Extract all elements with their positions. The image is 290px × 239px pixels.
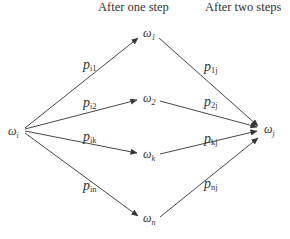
node-omega-1: ω1 xyxy=(143,26,155,42)
edge-1-to-j xyxy=(159,38,258,126)
label-p-i1: pi1 xyxy=(82,57,97,73)
label-p-i2: pi2 xyxy=(82,95,97,111)
node-omega-j: ωj xyxy=(264,122,275,138)
node-omega-k: ωk xyxy=(143,147,155,163)
label-p-kj: pkj xyxy=(203,131,218,147)
label-p-in: pin xyxy=(82,178,97,194)
edge-i-to-k xyxy=(25,131,137,153)
label-p-ik: pik xyxy=(82,129,97,145)
transition-diagram: ωi ω1 ω2 ωk ωn ωj pi1 pi2 pik pin p1j p2… xyxy=(0,0,290,239)
node-omega-2: ω2 xyxy=(143,91,155,107)
edge-i-to-n xyxy=(25,133,138,216)
node-omega-i: ωi xyxy=(8,124,19,140)
label-p-1j: p1j xyxy=(203,59,218,75)
label-p-nj: pnj xyxy=(203,176,218,192)
node-omega-n: ωn xyxy=(143,211,155,227)
label-p-2j: p2j xyxy=(203,94,218,110)
